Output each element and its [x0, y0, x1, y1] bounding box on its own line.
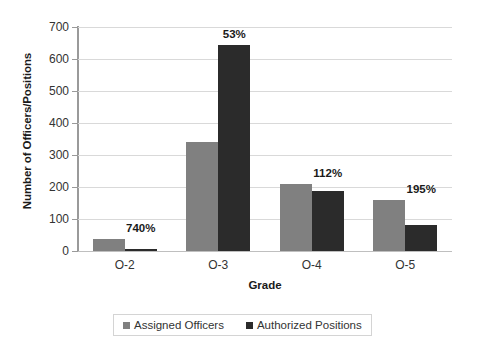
legend-item[interactable]: Assigned Officers — [123, 319, 224, 331]
y-axis-tick-label: 100 — [16, 212, 78, 226]
chart-legend: Assigned OfficersAuthorized Positions — [113, 314, 372, 336]
bar — [373, 200, 405, 251]
bar — [125, 249, 157, 251]
bar-chart: Number of Officers/Positions 01002003004… — [0, 0, 477, 360]
gridline — [78, 155, 452, 156]
gridline — [78, 59, 452, 60]
gridline — [78, 251, 452, 252]
y-axis-tick-label: 700 — [16, 20, 78, 34]
y-axis-tick-label: 600 — [16, 52, 78, 66]
bar — [405, 225, 437, 251]
x-axis-tick-label: O-3 — [208, 258, 228, 272]
data-label: 740% — [126, 222, 155, 234]
legend-swatch-icon — [246, 322, 253, 329]
x-axis-tick-label: O-5 — [395, 258, 415, 272]
y-axis-tick-labels: 0100200300400500600700 — [0, 0, 78, 360]
y-axis-tick-label: 0 — [16, 244, 78, 258]
gridline — [78, 91, 452, 92]
bar — [280, 184, 312, 251]
data-label: 112% — [313, 167, 342, 179]
y-axis-tick-label: 400 — [16, 116, 78, 130]
legend-item[interactable]: Authorized Positions — [246, 319, 362, 331]
gridline — [78, 27, 452, 28]
data-label: 53% — [223, 28, 246, 40]
y-axis-tick-label: 500 — [16, 84, 78, 98]
y-axis-tick-label: 300 — [16, 148, 78, 162]
bar — [312, 191, 344, 251]
x-axis-tick-label: O-4 — [302, 258, 322, 272]
bar — [93, 239, 125, 251]
legend-label: Assigned Officers — [134, 319, 224, 331]
gridline — [78, 123, 452, 124]
gridline — [78, 187, 452, 188]
legend-swatch-icon — [123, 322, 130, 329]
bar — [186, 142, 218, 251]
plot-area: 740%53%112%195% — [78, 27, 452, 251]
bar — [218, 45, 250, 251]
x-axis-tick-label: O-2 — [115, 258, 135, 272]
y-axis-tick-label: 200 — [16, 180, 78, 194]
x-axis-title: Grade — [78, 279, 452, 291]
legend-label: Authorized Positions — [257, 319, 362, 331]
data-label: 195% — [407, 183, 436, 195]
